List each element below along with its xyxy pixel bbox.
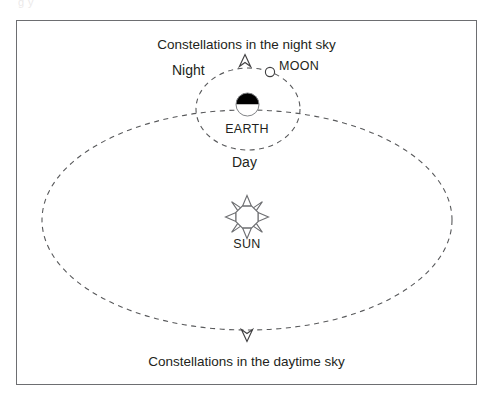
moon-symbol	[265, 67, 274, 76]
sun-ray-w	[226, 213, 237, 222]
caption-night-sky: Constellations in the night sky	[16, 38, 477, 52]
sun-core	[236, 206, 258, 228]
sun-symbol	[226, 196, 269, 239]
label-night: Night	[172, 63, 205, 77]
label-moon: MOON	[279, 60, 319, 73]
earth-night-hemisphere	[236, 93, 259, 104]
moon-orbit-direction-arrow	[239, 55, 250, 67]
figure-root: g y	[0, 0, 494, 416]
label-earth: EARTH	[207, 123, 287, 136]
label-day: Day	[232, 155, 257, 169]
caption-daytime-sky: Constellations in the daytime sky	[16, 355, 477, 369]
sun-ray-n	[243, 196, 252, 207]
earth-day-hemisphere	[236, 105, 259, 117]
label-sun: SUN	[207, 238, 287, 251]
earth-orbit-direction-arrow	[241, 330, 252, 342]
earth-symbol	[236, 93, 259, 116]
sun-ray-e	[258, 213, 269, 222]
